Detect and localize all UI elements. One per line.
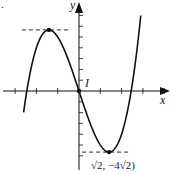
local-max-point: [47, 28, 51, 32]
series-curve: [24, 16, 141, 153]
ticks: [15, 15, 164, 155]
local-min-point: [107, 150, 111, 154]
inflection-point: [77, 89, 81, 93]
x-axis-label: x: [159, 93, 166, 107]
function-graph: . y x I √2, −4√2): [0, 0, 172, 174]
min-point-label: √2, −4√2): [91, 159, 135, 172]
y-axis-arrow: [75, 2, 83, 13]
inflection-label: I: [84, 76, 90, 90]
panel-marker: .: [1, 0, 4, 10]
y-axis-label: y: [69, 0, 76, 12]
